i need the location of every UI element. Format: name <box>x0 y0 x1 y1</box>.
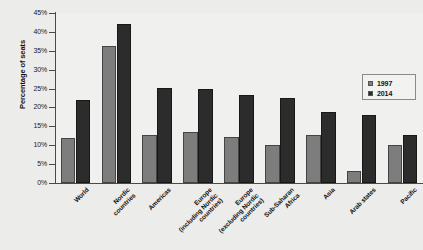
bar-group <box>259 13 300 183</box>
bar-2014 <box>362 115 377 183</box>
bar-group <box>219 13 260 183</box>
legend-label-2014: 2014 <box>377 90 392 97</box>
legend-item-1997: 1997 <box>368 78 415 88</box>
y-tick-label: 25% <box>21 85 47 92</box>
bar-1997 <box>183 132 198 183</box>
bar-2014 <box>321 112 336 183</box>
bar-2014 <box>280 98 295 183</box>
bar-group <box>55 13 96 183</box>
bar-2014 <box>117 24 132 183</box>
x-axis-labels: WorldNordic countriesAmericasEurope (inc… <box>55 186 423 250</box>
y-tick-label: 20% <box>21 103 47 110</box>
y-tick-label: 45% <box>21 9 47 16</box>
legend-swatch-2014 <box>368 91 373 96</box>
y-tick-label: 15% <box>21 122 47 129</box>
bar-2014 <box>76 100 91 183</box>
bar-2014 <box>403 135 418 183</box>
bar-1997 <box>306 135 321 183</box>
legend-swatch-1997 <box>368 81 373 86</box>
y-tick-label: 40% <box>21 28 47 35</box>
bar-2014 <box>239 95 254 183</box>
bar-1997 <box>224 137 239 183</box>
bar-1997 <box>61 138 76 183</box>
legend-item-2014: 2014 <box>368 88 415 98</box>
bar-2014 <box>198 89 213 183</box>
bar-group <box>178 13 219 183</box>
bar-2014 <box>157 88 172 183</box>
bar-chart: Percentage of seats 0%5%10%15%20%25%30%3… <box>0 0 423 250</box>
y-tick-label: 0% <box>21 179 47 186</box>
bar-1997 <box>102 46 117 184</box>
bar-1997 <box>388 145 403 183</box>
legend-label-1997: 1997 <box>377 80 392 87</box>
x-axis-line <box>55 183 423 184</box>
bar-group <box>137 13 178 183</box>
bar-1997 <box>142 135 157 183</box>
bar-group <box>300 13 341 183</box>
y-tick-label: 10% <box>21 141 47 148</box>
y-tick-label: 5% <box>21 160 47 167</box>
bar-1997 <box>265 145 280 183</box>
y-tick-mark <box>49 183 55 184</box>
bar-1997 <box>347 171 362 183</box>
bar-group <box>96 13 137 183</box>
y-tick-label: 35% <box>21 47 47 54</box>
legend: 1997 2014 <box>362 74 416 100</box>
y-tick-label: 30% <box>21 66 47 73</box>
